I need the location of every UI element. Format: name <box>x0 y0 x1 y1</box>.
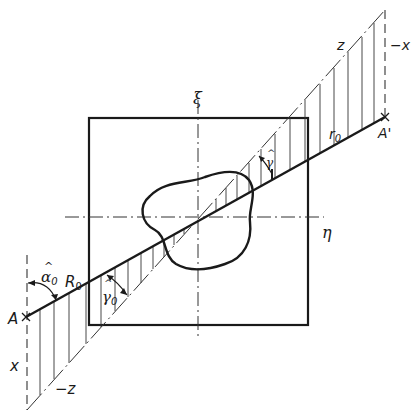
A-label: A <box>7 310 18 328</box>
alpha0-label: α0 <box>41 268 58 287</box>
x-bottom-label: x <box>9 357 19 375</box>
z-top-label: z <box>336 37 345 53</box>
R0-label: R0 <box>65 273 82 292</box>
alpha0-arrowhead-left <box>28 280 35 286</box>
r0-label: r0 <box>329 126 341 144</box>
minus-x-top-label: −x <box>390 37 411 53</box>
gamma0-label-hat: ^ <box>104 277 112 288</box>
hatching-left <box>40 229 184 395</box>
eta-axis-label: η <box>322 223 332 242</box>
gamma-label: γ <box>266 156 274 170</box>
gamma0-arrowhead-bottom <box>120 288 127 295</box>
A-prime-label: A' <box>377 125 391 141</box>
minus-z-bottom-label: −z <box>55 380 77 398</box>
diagram-canvas: ξ η z −x r0 A' ^ γ ^ α0 R0 ^ γ0 A x −z <box>0 0 418 413</box>
z-axis-line <box>27 10 385 410</box>
xi-axis-label: ξ <box>193 89 203 108</box>
point-A-marker <box>22 313 30 321</box>
